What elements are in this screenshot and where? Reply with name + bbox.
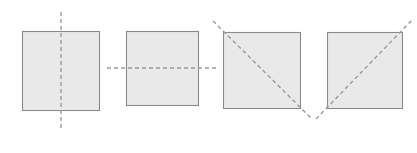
squares-layer <box>23 32 403 111</box>
symmetry-figure: previewsamplepreviewsamplepreviewpreview <box>0 0 417 153</box>
square-diagonal-bl-tr-symmetry <box>328 33 403 109</box>
figure-canvas: previewsamplepreviewsamplepreviewpreview <box>0 0 417 153</box>
